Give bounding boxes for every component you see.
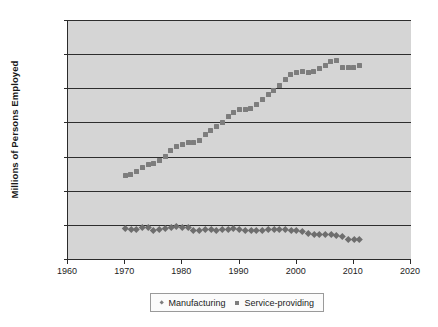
data-point — [317, 66, 322, 71]
data-point — [311, 69, 316, 74]
data-point — [243, 107, 248, 112]
plot-area: 020,00040,00060,00080,000100,000120,0001… — [67, 20, 411, 259]
data-point — [260, 97, 265, 102]
x-tick-label: 1990 — [214, 266, 264, 276]
y-axis-title: Millions of Persons Employed — [4, 0, 26, 259]
x-tick-label: 1960 — [42, 266, 92, 276]
data-point — [294, 70, 299, 75]
data-point — [254, 102, 259, 107]
data-point — [191, 140, 196, 145]
y-gridline — [68, 191, 411, 192]
y-tick-mark — [64, 191, 68, 192]
data-point — [266, 92, 271, 97]
y-tick-mark — [64, 54, 68, 55]
data-point — [271, 88, 276, 93]
data-point — [237, 107, 242, 112]
chart-legend: ManufacturingService-providing — [150, 293, 324, 312]
data-point — [306, 70, 311, 75]
data-point — [186, 140, 191, 145]
y-gridline — [68, 20, 411, 21]
data-point — [197, 138, 202, 143]
data-point — [134, 169, 139, 174]
data-point — [283, 77, 288, 82]
x-tick-mark — [353, 260, 354, 264]
x-tick-mark — [181, 260, 182, 264]
data-point — [214, 124, 219, 129]
legend-label: Service-providing — [244, 298, 314, 308]
data-point — [146, 162, 151, 167]
data-point — [248, 106, 253, 111]
y-gridline — [68, 122, 411, 123]
y-tick-mark — [64, 88, 68, 89]
legend-entry: Manufacturing — [160, 298, 225, 308]
data-point — [128, 172, 133, 177]
x-tick-label: 2010 — [328, 266, 378, 276]
data-point — [356, 236, 362, 242]
y-gridline — [68, 157, 411, 158]
data-point — [157, 158, 162, 163]
data-point — [174, 144, 179, 149]
data-point — [151, 161, 156, 166]
data-point — [288, 72, 293, 77]
y-tick-mark — [64, 122, 68, 123]
data-point — [357, 63, 362, 68]
data-point — [168, 148, 173, 153]
data-point — [300, 69, 305, 74]
data-point — [140, 165, 145, 170]
data-point — [340, 65, 345, 70]
y-gridline — [68, 88, 411, 89]
x-tick-label: 2020 — [385, 266, 435, 276]
data-point — [323, 63, 328, 68]
y-tick-mark — [64, 157, 68, 158]
data-point — [328, 59, 333, 64]
legend-marker-icon — [159, 300, 164, 305]
data-point — [351, 65, 356, 70]
data-point — [334, 58, 339, 63]
legend-entry: Service-providing — [235, 298, 314, 308]
y-axis-title-text: Millions of Persons Employed — [10, 61, 21, 199]
y-tick-mark — [64, 225, 68, 226]
data-point — [163, 154, 168, 159]
data-point — [180, 142, 185, 147]
x-tick-mark — [410, 260, 411, 264]
data-point — [226, 114, 231, 119]
data-point — [203, 132, 208, 137]
data-point — [265, 226, 271, 232]
legend-marker-icon — [235, 301, 239, 305]
x-tick-label: 1980 — [156, 266, 206, 276]
data-point — [277, 83, 282, 88]
chart-figure: Millions of Persons Employed 020,00040,0… — [0, 0, 438, 327]
x-axis: 1960197019801990200020102020 — [67, 259, 410, 260]
y-tick-mark — [64, 20, 68, 21]
x-tick-mark — [67, 260, 68, 264]
x-tick-label: 1970 — [99, 266, 149, 276]
x-tick-label: 2000 — [271, 266, 321, 276]
y-gridline — [68, 54, 411, 55]
legend-label: Manufacturing — [168, 298, 225, 308]
data-point — [220, 120, 225, 125]
data-point — [208, 128, 213, 133]
x-tick-mark — [239, 260, 240, 264]
x-tick-mark — [296, 260, 297, 264]
x-tick-mark — [124, 260, 125, 264]
data-point — [123, 173, 128, 178]
data-point — [346, 65, 351, 70]
data-point — [231, 110, 236, 115]
